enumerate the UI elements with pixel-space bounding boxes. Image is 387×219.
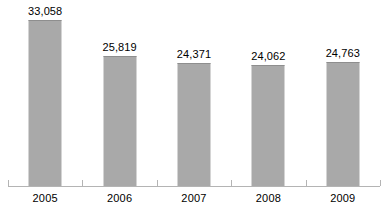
bar-value-label: 24,371 [177, 49, 211, 60]
x-axis-tick [8, 180, 9, 186]
bar-value-label: 25,819 [102, 42, 136, 53]
bar[interactable] [103, 56, 136, 186]
bar-value-label: 33,058 [28, 6, 62, 17]
x-axis-tick [231, 180, 232, 186]
category-label-2009: 2009 [330, 191, 355, 205]
x-axis-tick [380, 180, 381, 186]
plot-area: 33,05825,81924,37124,06224,763 [0, 0, 387, 186]
bar-group: 25,819 [82, 0, 156, 186]
x-axis-tick [82, 180, 83, 186]
category-label-2007: 2007 [181, 191, 206, 205]
category-label-2008: 2008 [256, 191, 281, 205]
x-axis-line [8, 186, 380, 187]
bar[interactable] [326, 62, 359, 186]
bar-group: 24,371 [157, 0, 231, 186]
bar-chart: 33,05825,81924,37124,06224,763 200520062… [0, 0, 387, 219]
bar-group: 24,062 [231, 0, 305, 186]
bar-value-label: 24,062 [251, 51, 285, 62]
x-axis-tick [157, 180, 158, 186]
category-label-2005: 2005 [33, 191, 58, 205]
bar[interactable] [252, 65, 285, 186]
bar-value-label: 24,763 [326, 48, 360, 59]
bar[interactable] [29, 20, 62, 186]
bar[interactable] [177, 63, 210, 186]
x-axis-tick [306, 180, 307, 186]
bar-group: 24,763 [306, 0, 380, 186]
bar-group: 33,058 [8, 0, 82, 186]
x-axis-category-labels: 20052006200720082009 [0, 191, 387, 211]
category-label-2006: 2006 [107, 191, 132, 205]
